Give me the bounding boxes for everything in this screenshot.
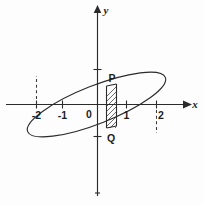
x-tick-label-1: 1 (124, 109, 130, 121)
point-label-p: P (108, 72, 115, 84)
figure-canvas: x y -2 -1 0 1 2 P Q (0, 0, 204, 205)
strip-top-edge (107, 84, 117, 86)
x-axis (6, 101, 192, 109)
point-label-q: Q (107, 132, 115, 144)
y-axis-label: y (102, 4, 109, 16)
x-tick-label-2: 2 (158, 109, 164, 121)
x-tick-label--2: -2 (32, 109, 41, 121)
x-axis-label: x (191, 98, 198, 110)
y-axis (94, 5, 102, 196)
origin-label: 0 (86, 108, 92, 120)
ellipse-figure: x y -2 -1 0 1 2 P Q (0, 0, 204, 205)
x-tick-label--1: -1 (58, 109, 67, 121)
x-axis-arrowhead (183, 101, 192, 109)
y-axis-arrowhead (94, 5, 102, 13)
